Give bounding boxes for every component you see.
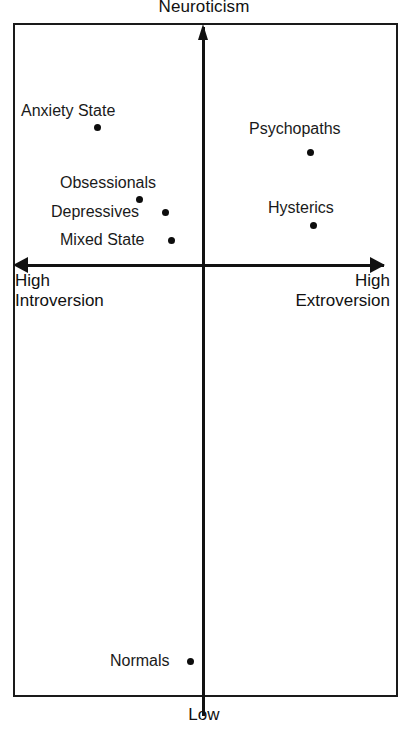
data-point [162,209,169,216]
data-point [310,222,317,229]
data-point [94,124,101,131]
data-point [307,149,314,156]
axis-label-high-extroversion: High Extroversion [205,271,390,311]
data-point-label: Obsessionals [60,174,156,192]
data-point [136,196,143,203]
data-point [187,658,194,665]
data-point-label: Normals [110,652,170,670]
axis-label-low: Low [0,705,402,725]
data-point-label: Hysterics [268,199,334,217]
data-point-label: Depressives [51,203,139,221]
data-point-label: Anxiety State [21,102,115,120]
axis-title-neuroticism: Neuroticism [0,0,402,17]
data-point-label: Mixed State [60,231,144,249]
vertical-axis-arrow-icon [198,24,208,40]
data-point-label: Psychopaths [249,120,341,138]
horizontal-axis-line [17,264,384,267]
data-point [168,237,175,244]
axis-label-high-introversion: High Introversion [15,271,104,311]
vertical-axis-line [202,27,205,716]
